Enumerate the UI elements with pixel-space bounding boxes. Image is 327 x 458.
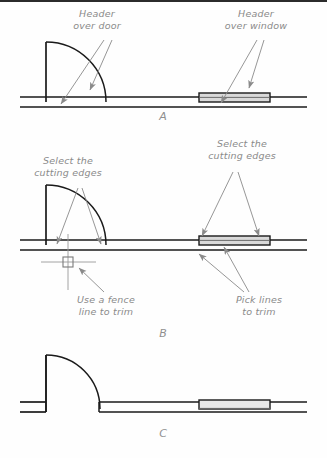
callout-line-2: cutting edges — [208, 150, 276, 161]
callout-header-over-window: Headerover window — [206, 8, 306, 31]
figure-label-a: A — [140, 110, 186, 123]
callout-line-2: over window — [225, 20, 287, 31]
callout-line-2: over door — [73, 20, 121, 31]
panel-c-drawing — [20, 355, 307, 412]
callout-line-1: Use a fence — [77, 294, 135, 305]
callout-line-1: Pick lines — [236, 294, 282, 305]
callout-line-2: to trim — [242, 306, 275, 317]
panel-c-window-header — [199, 400, 270, 409]
callout-select-cutting-edges-door: Select thecutting edges — [18, 155, 118, 178]
callout-line-2: line to trim — [79, 306, 134, 317]
callout-line-2: cutting edges — [34, 167, 102, 178]
callout-line-1: Select the — [43, 155, 93, 166]
callout-pick-lines-to-trim: Pick linesto trim — [214, 294, 304, 317]
panel-b-leader-lines — [57, 172, 259, 292]
callout-header-over-door: Headerover door — [58, 8, 136, 31]
callout-line-1: Select the — [217, 138, 267, 149]
diagram-canvas: Headerover door Headerover window A Sele… — [0, 0, 327, 458]
callout-line-1: Header — [238, 8, 274, 19]
diagram-artwork — [0, 0, 327, 458]
callout-use-a-fence-line-to-trim: Use a fenceline to trim — [58, 294, 154, 317]
figure-label-c: C — [140, 427, 186, 440]
panel-b-window-header — [199, 236, 270, 245]
callout-select-cutting-edges-window: Select thecutting edges — [192, 138, 292, 161]
callout-line-1: Header — [79, 8, 115, 19]
panel-a-window-header — [199, 93, 270, 102]
panel-b-drawing — [20, 172, 307, 292]
figure-label-b: B — [140, 327, 186, 340]
panel-c-door — [46, 355, 100, 412]
crosshair-cursor — [41, 234, 96, 290]
panel-a-drawing — [20, 40, 307, 107]
